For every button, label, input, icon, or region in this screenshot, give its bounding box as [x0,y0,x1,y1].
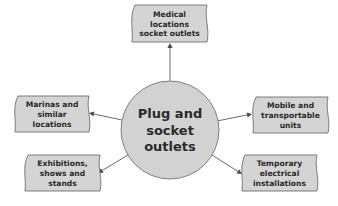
node-label-line: similar [37,110,66,119]
arrow-to-exhibitions [98,155,128,173]
hub-node: Plug andsocketoutlets [121,81,219,179]
connector-line [212,155,238,171]
hub-label-line: outlets [144,139,196,154]
arrowhead-icon [167,43,172,48]
arrowhead-icon [247,112,252,117]
connector-line [217,115,247,121]
connector-line [94,114,122,120]
node-label-line: Medical [153,10,186,19]
node-mobile: Mobile andtransportableunits [253,97,329,133]
arrow-to-marinas [89,111,122,120]
hub-label-line: socket [146,123,194,138]
arrow-to-mobile [217,112,252,121]
node-medical: Medicallocationssocket outlets [132,5,208,42]
plug-socket-diagram: Plug andsocketoutlets Medicallocationsso… [0,0,338,206]
node-label-line: Mobile and [267,101,314,110]
node-marinas: Marinas andsimilarlocations [15,96,90,132]
node-label-line: Temporary [257,159,303,168]
node-label-line: shows and [40,169,85,178]
arrow-to-medical [167,43,172,81]
node-label-line: electrical [260,169,300,178]
node-exhibitions: Exhibitions,shows andstands [25,155,101,191]
node-label-line: installations [253,179,306,188]
node-label-line: transportable [261,111,320,120]
node-label-line: units [280,121,302,130]
node-temporary: Temporaryelectricalinstallations [242,155,318,191]
arrow-to-temporary [212,155,242,174]
hub-label-line: Plug and [138,106,202,121]
node-label-line: socket outlets [139,29,200,38]
node-label-line: locations [150,20,189,29]
node-label-line: Exhibitions, [37,159,88,168]
arrowhead-icon [236,169,242,174]
node-label-line: stands [48,179,77,188]
node-label-line: Marinas and [26,100,79,109]
arrowhead-icon [89,111,94,116]
connector-line [102,155,128,170]
node-label-line: locations [33,120,72,129]
